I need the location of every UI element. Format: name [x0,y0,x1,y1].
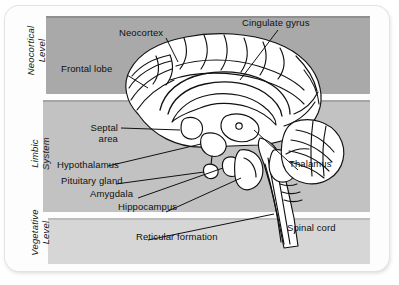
level-label-vegetative: Vegetative Level [30,185,51,281]
label-frontal-lobe: Frontal lobe [61,63,112,74]
leader-hypothalamus [108,144,201,166]
label-cingulate-gyrus: Cingulate gyrus [242,17,310,28]
medulla-stripe-3 [284,200,302,202]
label-amygdala: Amygdala [90,188,133,199]
label-neocortex: Neocortex [119,27,163,38]
label-septal-area: Septal area [66,122,118,144]
pituitary-gland [204,164,219,178]
figure-canvas: Neocortical Level Limbic System Vegetati… [0,0,399,285]
interthalamic-adhesion [236,123,242,129]
label-spinal-cord: Spinal cord [287,222,336,233]
leader-hippocampus [166,178,241,212]
label-reticular-formation: Reticular formation [136,231,218,242]
level-label-neocortical: Neocortical Level [26,11,47,91]
label-hippocampus: Hippocampus [118,201,177,212]
pituitary-stalk [211,156,212,165]
label-pituitary-gland: Pituitary gland [61,175,123,186]
label-hypothalamus: Hypothalamus [57,159,119,170]
medulla-stripe-2 [282,192,300,194]
leader-pituitary-gland [116,172,204,184]
hippocampus [235,150,263,190]
leader-amygdala [138,168,223,198]
label-thalamus: Thalamus [289,158,332,169]
medulla-stripe-1 [280,184,297,186]
septal-area [181,117,203,139]
